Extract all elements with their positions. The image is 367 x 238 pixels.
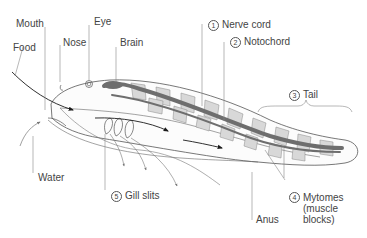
label-nerve-cord: 1Nerve cord — [208, 19, 271, 31]
label-nose: Nose — [63, 37, 86, 48]
number-badge: 3 — [289, 90, 300, 101]
label-water: Water — [38, 172, 64, 183]
label-mytomes: 4Mytomes (muscle blocks) — [289, 192, 344, 225]
label-food: Food — [13, 42, 36, 53]
number-badge: 5 — [111, 191, 122, 202]
nose — [60, 85, 63, 90]
number-badge: 1 — [208, 20, 219, 31]
label-eye: Eye — [94, 16, 111, 27]
label-mouth: Mouth — [16, 18, 44, 29]
label-anus: Anus — [256, 214, 279, 225]
label-brain: Brain — [120, 37, 143, 48]
label-tail: 3Tail — [289, 89, 318, 101]
brain — [103, 81, 123, 89]
label-notochord: 2Notochord — [230, 36, 290, 48]
label-gill-slits: 5Gill slits — [111, 190, 159, 202]
water-arrow — [20, 122, 40, 146]
number-badge: 2 — [230, 37, 241, 48]
number-badge: 4 — [289, 192, 300, 203]
